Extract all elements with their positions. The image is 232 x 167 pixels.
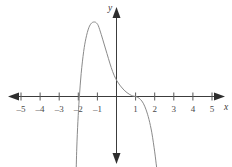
xtick-label-4: 4	[191, 104, 196, 114]
xtick-label-3: 3	[172, 104, 177, 114]
y-axis-down-arrow-icon	[113, 153, 121, 164]
xtick-label-minus1: –1	[92, 104, 102, 114]
x-axis-left-arrow-icon	[8, 93, 19, 101]
y-axis-up-arrow-icon	[113, 7, 121, 18]
xtick-label-5: 5	[210, 104, 215, 114]
y-axis-label: y	[107, 3, 113, 13]
x-axis-right-arrow-icon	[214, 93, 225, 101]
coordinate-plane: –5 –4 –3 –2 –1 1 2 3 4 5 y x	[0, 0, 232, 167]
xtick-label-minus2: –2	[73, 104, 83, 114]
x-axis-label: x	[223, 102, 229, 112]
polynomial-curve	[76, 22, 158, 167]
x-axis-tick-labels: –5 –4 –3 –2 –1 1 2 3 4 5	[16, 104, 215, 114]
xtick-label-minus3: –3	[54, 104, 65, 114]
xtick-label-1: 1	[133, 104, 138, 114]
xtick-label-minus5: –5	[16, 104, 27, 114]
xtick-label-2: 2	[152, 104, 157, 114]
xtick-label-minus4: –4	[35, 104, 46, 114]
graph-figure: –5 –4 –3 –2 –1 1 2 3 4 5 y x	[0, 0, 232, 167]
